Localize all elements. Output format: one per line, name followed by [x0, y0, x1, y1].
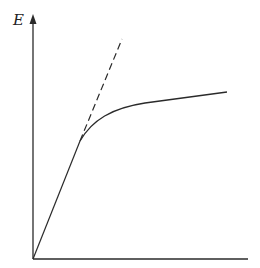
y-axis-arrow-icon [30, 14, 37, 24]
saturation-curve [80, 92, 227, 141]
tangent-extension [80, 39, 122, 141]
y-axis-label: E [12, 11, 24, 29]
stress-strain-diagram: E [0, 0, 260, 268]
linear-segment [33, 141, 80, 259]
